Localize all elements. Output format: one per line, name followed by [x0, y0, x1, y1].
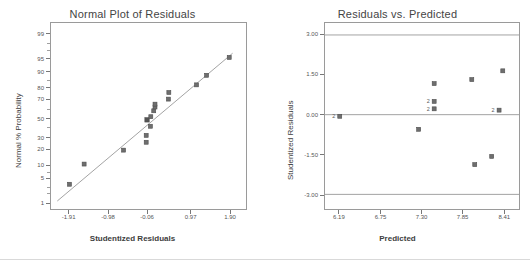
y-tick-mark	[46, 71, 50, 72]
y-minor-tick	[47, 127, 50, 128]
y-tick-label: 1.50	[295, 71, 318, 77]
y-tick-mark	[46, 99, 50, 100]
x-tick-label: -0.06	[140, 214, 154, 220]
y-tick-mark	[320, 34, 324, 35]
y-tick-mark	[320, 74, 324, 75]
y-tick-label: 30	[26, 135, 44, 141]
y-tick-mark	[46, 178, 50, 179]
data-point-8	[152, 109, 156, 113]
y-minor-tick	[47, 193, 50, 194]
panel-residuals-vs-predicted: Residuals vs. Predicted Studentized Resi…	[265, 0, 530, 260]
point-count-label: 2	[427, 98, 430, 104]
y-tick-label: 99	[26, 31, 44, 37]
data-point-2	[432, 82, 436, 86]
data-point-13	[195, 83, 199, 87]
y-tick-label: -3.00	[295, 192, 318, 198]
y-tick-mark	[46, 118, 50, 119]
y-tick-mark	[46, 87, 50, 88]
data-point-6	[473, 163, 477, 167]
x-tick-label: 7.85	[457, 214, 469, 220]
y-tick-mark	[46, 203, 50, 204]
x-tick-mark	[230, 210, 231, 214]
data-point-6	[148, 124, 152, 128]
point-count-label: 2	[427, 106, 430, 112]
y-tick-label: 95	[26, 56, 44, 62]
y-tick-mark	[46, 58, 50, 59]
y-axis-label-normal-plot: Normal % Probability	[14, 93, 23, 168]
data-point-2	[122, 148, 126, 152]
y-minor-tick	[47, 50, 50, 51]
y-tick-label: 5	[26, 175, 44, 181]
data-point-10	[153, 102, 157, 106]
y-tick-mark	[46, 33, 50, 34]
x-tick-label: 8.41	[499, 214, 511, 220]
data-point-8	[497, 108, 501, 112]
data-point-0	[67, 182, 71, 186]
data-point-11	[166, 97, 170, 101]
x-tick-label: 7.30	[416, 214, 428, 220]
panel-normal-plot: Normal Plot of Residuals Normal % Probab…	[0, 0, 265, 260]
y-tick-mark	[320, 154, 324, 155]
data-point-1	[82, 162, 86, 166]
data-point-9	[501, 69, 505, 73]
x-tick-label: 0.97	[185, 214, 197, 220]
point-count-label: 2	[332, 113, 335, 119]
x-tick-mark	[108, 210, 109, 214]
y-tick-label: 20	[26, 146, 44, 152]
y-tick-mark	[320, 114, 324, 115]
x-axis-label-residuals-vs-predicted: Predicted	[265, 234, 530, 243]
x-tick-mark	[147, 210, 148, 214]
x-tick-mark	[68, 210, 69, 214]
y-tick-label: 80	[26, 85, 44, 91]
x-tick-label: -0.98	[101, 214, 115, 220]
x-tick-mark	[190, 210, 191, 214]
x-tick-label: 1.90	[224, 214, 236, 220]
y-tick-label: 90	[26, 69, 44, 75]
y-minor-tick	[47, 187, 50, 188]
x-tick-label: -1.91	[62, 214, 76, 220]
data-point-12	[167, 91, 171, 95]
figure-canvas: Normal Plot of Residuals Normal % Probab…	[0, 0, 530, 260]
x-tick-mark	[462, 210, 463, 214]
data-point-3	[432, 99, 436, 103]
y-tick-label: 3.00	[295, 31, 318, 37]
data-point-14	[205, 73, 209, 77]
data-point-4	[144, 133, 148, 137]
x-axis-label-normal-plot: Studentized Residuals	[0, 234, 265, 243]
data-point-7	[149, 115, 153, 119]
data-point-7	[490, 154, 494, 158]
x-tick-mark	[338, 210, 339, 214]
y-tick-label: 10	[26, 162, 44, 168]
data-point-3	[144, 140, 148, 144]
data-point-15	[227, 55, 231, 59]
y-tick-label: 50	[26, 116, 44, 122]
y-tick-mark	[46, 137, 50, 138]
plot-canvas-normal-plot	[51, 23, 246, 209]
y-minor-tick	[47, 172, 50, 173]
data-point-0	[338, 114, 342, 118]
data-point-1	[417, 127, 421, 131]
y-tick-label: 70	[26, 96, 44, 102]
data-point-4	[432, 107, 436, 111]
y-tick-label: 0.00	[295, 112, 318, 118]
plot-canvas-residuals-vs-predicted: 2222	[325, 23, 519, 209]
y-minor-tick	[47, 80, 50, 81]
chart-title-residuals-vs-predicted: Residuals vs. Predicted	[265, 8, 530, 20]
plot-area-normal-plot	[50, 22, 247, 210]
chart-title-normal-plot: Normal Plot of Residuals	[0, 8, 265, 20]
y-tick-mark	[46, 165, 50, 166]
x-tick-label: 6.75	[375, 214, 387, 220]
y-tick-label: 1	[26, 200, 44, 206]
data-point-5	[470, 78, 474, 82]
y-tick-label: -1.50	[295, 152, 318, 158]
point-count-label: 2	[492, 107, 495, 113]
x-tick-label: 6.19	[333, 214, 345, 220]
y-axis-label-residuals-vs-predicted: Studentized Residuals	[286, 100, 295, 180]
y-tick-mark	[320, 195, 324, 196]
plot-area-residuals-vs-predicted: 2222	[324, 22, 520, 210]
y-minor-tick	[47, 43, 50, 44]
x-tick-mark	[380, 210, 381, 214]
y-minor-tick	[47, 109, 50, 110]
x-tick-mark	[421, 210, 422, 214]
y-minor-tick	[47, 149, 50, 150]
